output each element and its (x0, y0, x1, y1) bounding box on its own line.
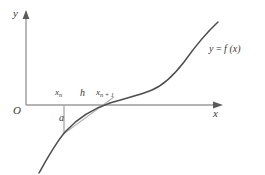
x-axis-label: x (213, 108, 218, 119)
function-curve (39, 22, 218, 173)
curve-label-argument: (x) (227, 43, 241, 54)
y-axis-arrowhead (23, 10, 30, 19)
origin-label: O (13, 105, 21, 116)
segment-a-label: a (59, 113, 64, 123)
tangent-line (62, 97, 114, 135)
step-h-label: h (80, 88, 85, 98)
curve-equation-label: y = f (x) (209, 44, 240, 54)
x-n-plus-1-subscript: n + 1 (100, 91, 114, 98)
figure-canvas (0, 0, 265, 175)
x-n-label: xn (55, 88, 62, 98)
y-axis-label: y (13, 8, 18, 19)
newtons-method-figure: y x O a xn h xn + 1 y = f (x) (0, 0, 265, 175)
x-n-plus-1-label: xn + 1 (96, 88, 114, 98)
curve-label-equals: = (213, 43, 224, 54)
x-n-subscript: n (59, 91, 62, 98)
